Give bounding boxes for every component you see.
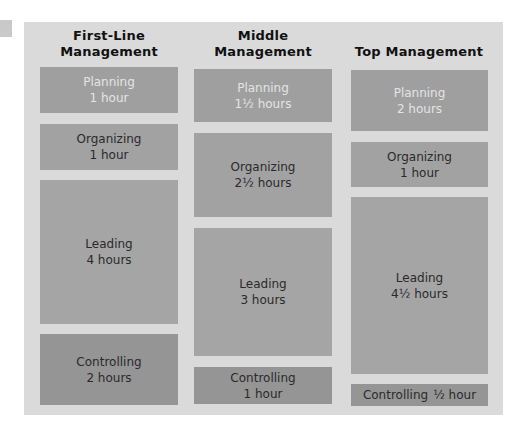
top-organizing-box: Organizing 1 hour (351, 142, 488, 187)
activity-time: 1 hour (400, 165, 439, 181)
activity-name: Controlling (363, 387, 428, 403)
activity-time: 2½ hours (235, 175, 292, 191)
first-line-planning-box: Planning 1 hour (40, 67, 178, 113)
activity-name: Leading (239, 276, 286, 292)
middle-organizing-box: Organizing 2½ hours (194, 133, 332, 217)
first-line-controlling-box: Controlling 2 hours (40, 334, 178, 405)
corner-marker (0, 20, 12, 37)
middle-controlling-box: Controlling 1 hour (194, 367, 332, 404)
header-line-2: Management (40, 44, 178, 60)
activity-time: 4 hours (86, 252, 131, 268)
activity-name: Controlling (76, 354, 141, 370)
header-top-management: Top Management (344, 44, 494, 60)
activity-name: Organizing (77, 131, 142, 147)
header-line-1: First-Line (40, 28, 178, 44)
activity-name: Organizing (231, 159, 296, 175)
first-line-organizing-box: Organizing 1 hour (40, 124, 178, 170)
activity-name: Leading (85, 236, 132, 252)
activity-time: 1 hour (90, 90, 129, 106)
header-middle-management: Middle Management (194, 28, 332, 60)
activity-time: 3 hours (240, 292, 285, 308)
activity-time: 2 hours (397, 101, 442, 117)
top-planning-box: Planning 2 hours (351, 70, 488, 131)
activity-name: Controlling (230, 370, 295, 386)
header-line-1: Top Management (344, 44, 494, 60)
activity-name: Planning (237, 80, 289, 96)
activity-name: Leading (396, 270, 443, 286)
activity-time: 1½ hours (235, 96, 292, 112)
activity-time: 2 hours (86, 370, 131, 386)
header-line-1: Middle (194, 28, 332, 44)
activity-time: ½ hour (433, 387, 476, 403)
activity-name: Planning (83, 74, 135, 90)
header-first-line-management: First-Line Management (40, 28, 178, 60)
middle-leading-box: Leading 3 hours (194, 228, 332, 356)
first-line-leading-box: Leading 4 hours (40, 180, 178, 324)
activity-time: 1 hour (90, 147, 129, 163)
top-leading-box: Leading 4½ hours (351, 197, 488, 374)
top-controlling-box: Controlling ½ hour (351, 384, 488, 406)
management-time-diagram: First-Line Management Middle Management … (24, 22, 503, 415)
activity-name: Planning (394, 85, 446, 101)
header-line-2: Management (194, 44, 332, 60)
middle-planning-box: Planning 1½ hours (194, 69, 332, 122)
activity-name: Organizing (387, 149, 452, 165)
activity-time: 1 hour (244, 386, 283, 402)
activity-time: 4½ hours (391, 286, 448, 302)
